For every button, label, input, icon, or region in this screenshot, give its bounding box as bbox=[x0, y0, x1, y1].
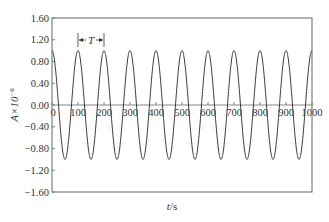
y-tick-label: 0.80 bbox=[31, 56, 49, 67]
x-tick-label: 400 bbox=[148, 107, 164, 118]
y-tick-label: 0.00 bbox=[31, 100, 49, 111]
y-axis-ticks: 1.601.200.800.400.00−0.40−0.80−1.20−1.60 bbox=[25, 13, 55, 198]
y-tick-label: 0.40 bbox=[31, 78, 49, 89]
y-tick-label: 1.60 bbox=[31, 13, 49, 24]
period-label: T bbox=[88, 34, 95, 46]
x-axis-label: t/s bbox=[167, 200, 177, 212]
y-tick-label: 1.20 bbox=[31, 34, 49, 45]
x-tick-label: 800 bbox=[252, 107, 268, 118]
x-tick-label: 300 bbox=[122, 107, 138, 118]
y-tick-label: −1.60 bbox=[25, 187, 49, 198]
x-tick-label: 500 bbox=[174, 107, 190, 118]
y-tick-label: −0.40 bbox=[25, 121, 49, 132]
x-tick-label: 200 bbox=[96, 107, 112, 118]
x-tick-label: 0 bbox=[50, 107, 55, 118]
chart: 1.601.200.800.400.00−0.40−0.80−1.20−1.60… bbox=[0, 0, 329, 222]
y-axis-label: A×10−6 bbox=[8, 88, 20, 123]
y-tick-label: −0.80 bbox=[25, 143, 49, 154]
x-tick-label: 600 bbox=[200, 107, 216, 118]
x-tick-label: 100 bbox=[70, 107, 86, 118]
x-tick-label: 700 bbox=[226, 107, 242, 118]
x-tick-label: 900 bbox=[278, 107, 294, 118]
period-annotation: T bbox=[78, 33, 104, 47]
y-tick-label: −1.20 bbox=[25, 165, 49, 176]
